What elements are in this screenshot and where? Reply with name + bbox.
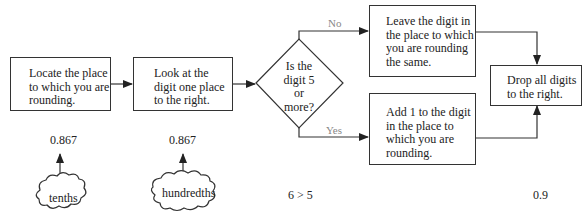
example-number-2: 0.867 (169, 133, 196, 148)
step-leave-box: Leave the digit in the place to which yo… (369, 5, 476, 77)
step-drop-text: Drop all digits to the right. (507, 73, 576, 101)
branch-no-label: No (328, 17, 341, 29)
comparison-text: 6 > 5 (288, 188, 313, 203)
cloud-hundredths-label: hundredths (162, 186, 215, 201)
step-look-text: Look at the digit one place to the right… (154, 66, 225, 107)
step-add-box: Add 1 to the digit in the place to which… (369, 93, 476, 165)
step-drop-box: Drop all digits to the right. (490, 65, 582, 106)
branch-yes-label: Yes (326, 124, 342, 136)
step-locate-box: Locate the place to which you are roundi… (10, 57, 111, 111)
decision-text: Is the digit 5 or more? (279, 60, 319, 114)
result-text: 0.9 (533, 188, 548, 203)
cloud-tenths-label: tenths (49, 191, 78, 206)
step-leave-text: Leave the digit in the place to which yo… (386, 14, 474, 69)
step-add-text: Add 1 to the digit in the place to which… (386, 105, 471, 160)
step-look-box: Look at the digit one place to the right… (133, 57, 233, 111)
example-number-1: 0.867 (50, 133, 77, 148)
step-locate-text: Locate the place to which you are roundi… (29, 66, 109, 107)
